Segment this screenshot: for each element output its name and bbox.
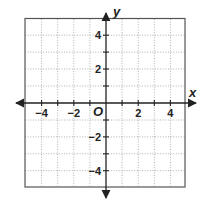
y-tick-label: −2: [88, 131, 101, 143]
y-axis-label: y: [112, 4, 121, 19]
x-tick-label: 4: [167, 107, 174, 119]
y-tick-label: 2: [95, 63, 101, 75]
x-axis-label: x: [188, 85, 197, 100]
x-tick-label: 2: [135, 107, 141, 119]
x-tick-label: −4: [35, 107, 48, 119]
y-tick-label: 4: [95, 29, 102, 41]
x-tick-label: −2: [68, 107, 81, 119]
y-tick-label: −4: [88, 165, 101, 177]
origin-label: O: [93, 104, 103, 119]
coordinate-plane: y x O −4 −2 2 4 4 2 −2 −4: [0, 0, 209, 210]
